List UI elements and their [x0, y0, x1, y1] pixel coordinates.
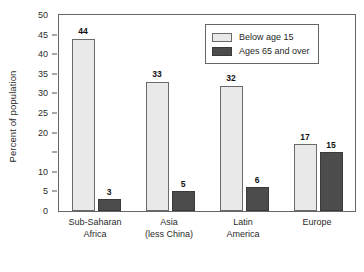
bar-value-label: 17: [300, 133, 309, 142]
y-axis-tick-label: 50: [38, 11, 48, 20]
bar[interactable]: [220, 86, 243, 211]
x-axis-label: Europe: [280, 216, 354, 228]
x-axis-category-labels: Sub-SaharanAfricaAsia(less China)LatinAm…: [58, 216, 356, 260]
y-axis-title: Percent of population: [0, 0, 26, 232]
y-axis-tick-mark: [52, 54, 57, 55]
bar-value-label: 15: [326, 141, 335, 150]
y-axis-tick-mark: [52, 93, 57, 94]
y-axis-tick-mark: [52, 191, 57, 192]
bar[interactable]: [246, 187, 269, 211]
x-axis-label-line2: (less China): [132, 228, 206, 240]
bar[interactable]: [320, 152, 343, 211]
bar[interactable]: [294, 144, 317, 211]
y-axis-tick-label: 35: [38, 69, 48, 78]
bar-value-label: 6: [255, 176, 260, 185]
bar-value-label: 33: [152, 70, 161, 79]
y-axis-tick-mark: [52, 171, 57, 172]
y-axis-tick-mark: [52, 132, 57, 133]
y-axis-tick-labels: 051020253035404550: [26, 14, 52, 212]
legend-item-label: Ages 65 and over: [239, 46, 310, 56]
bar-value-label: 5: [181, 180, 186, 189]
y-axis-tick-label: 25: [38, 109, 48, 118]
bar[interactable]: [72, 39, 95, 211]
y-axis-tick-label: 5: [43, 187, 48, 196]
bar[interactable]: [98, 199, 121, 211]
x-axis-label: LatinAmerica: [206, 216, 280, 240]
bar-chart: Percent of population 051020253035404550…: [0, 0, 364, 272]
bar-group: 335: [133, 15, 207, 211]
y-axis-tick-label: 0: [43, 207, 48, 216]
legend-color-swatch: [212, 47, 232, 56]
bar-group: 443: [59, 15, 133, 211]
x-axis-label-line1: Asia: [160, 217, 178, 227]
chart-legend: Below age 15Ages 65 and over: [205, 24, 319, 64]
x-axis-label: Sub-SaharanAfrica: [58, 216, 132, 240]
bar-value-label: 3: [107, 188, 112, 197]
x-axis-label: Asia(less China): [132, 216, 206, 240]
bar-value-label: 32: [226, 74, 235, 83]
x-axis-label-line2: Africa: [58, 228, 132, 240]
y-axis-tick-label: 45: [38, 30, 48, 39]
bar[interactable]: [172, 191, 195, 211]
y-axis-tick-mark: [52, 34, 57, 35]
y-axis-tick-mark: [52, 73, 57, 74]
y-axis-tick-label: 20: [38, 128, 48, 137]
x-axis-label-line2: America: [206, 228, 280, 240]
x-axis-label-line1: Sub-Saharan: [68, 217, 121, 227]
y-axis-tick-label: 40: [38, 50, 48, 59]
y-axis-title-text: Percent of population: [8, 70, 19, 162]
bar-value-label: 44: [78, 27, 87, 36]
y-axis-tick-mark: [52, 152, 57, 153]
legend-item[interactable]: Below age 15: [212, 30, 310, 44]
bar[interactable]: [146, 82, 169, 211]
x-axis-label-line1: Europe: [302, 217, 331, 227]
legend-item[interactable]: Ages 65 and over: [212, 44, 310, 58]
legend-item-label: Below age 15: [239, 32, 294, 42]
y-axis-tick-label: 30: [38, 89, 48, 98]
x-axis-label-line1: Latin: [233, 217, 253, 227]
y-axis-tick-label: 10: [38, 167, 48, 176]
legend-color-swatch: [212, 33, 232, 42]
y-axis-tick-mark: [52, 113, 57, 114]
